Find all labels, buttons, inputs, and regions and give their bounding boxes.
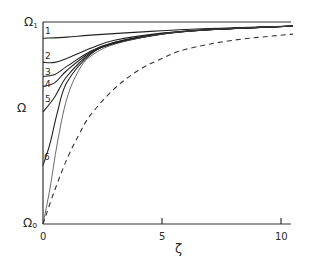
y-axis-label: Ω xyxy=(17,101,26,115)
y-top-label: Ω1 xyxy=(24,15,38,30)
curve-reference-dashed- xyxy=(43,34,293,224)
curves xyxy=(43,26,293,224)
curve-label-5: 5 xyxy=(45,94,51,104)
x-axis-label: ζ xyxy=(175,241,182,256)
x-tick-label-5: 5 xyxy=(159,231,165,242)
curve-label-3: 3 xyxy=(45,67,51,77)
x-tick-label-0: 0 xyxy=(40,231,46,242)
y-bottom-label: Ωo xyxy=(23,216,37,230)
curve-6 xyxy=(43,26,293,165)
curve-label-2: 2 xyxy=(45,51,51,61)
x-tick-label-10: 10 xyxy=(275,231,288,242)
curve-4 xyxy=(43,26,293,87)
curve-label-4: 4 xyxy=(45,79,51,89)
curve-labels: 1 2 3 4 5 6 xyxy=(44,26,51,162)
axis-labels: Ω1 Ω Ωo 0 5 10 ζ xyxy=(17,15,288,256)
curve-label-6: 6 xyxy=(44,152,50,162)
curve-5 xyxy=(43,26,293,112)
omega-vs-zeta-chart: Ω1 Ω Ωo 0 5 10 ζ 1 2 3 4 5 6 xyxy=(0,0,309,269)
curve-label-1: 1 xyxy=(45,26,51,36)
